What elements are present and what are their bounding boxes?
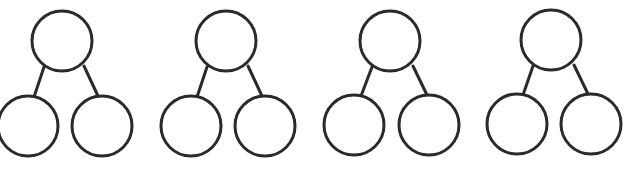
part-circle-left bbox=[487, 94, 547, 154]
connector-line-right bbox=[413, 66, 427, 95]
part-circle-right bbox=[235, 96, 295, 156]
part-circle-right bbox=[561, 94, 621, 154]
number-bond bbox=[0, 11, 132, 156]
connector-line-left bbox=[34, 67, 44, 97]
whole-circle bbox=[32, 11, 92, 71]
number-bond bbox=[161, 11, 295, 156]
part-circle-right bbox=[399, 95, 459, 155]
connector-line-left bbox=[523, 66, 533, 95]
whole-circle bbox=[521, 10, 581, 70]
diagram-canvas bbox=[0, 0, 624, 171]
number-bonds-diagram bbox=[0, 0, 624, 171]
connector-line-right bbox=[84, 66, 98, 96]
whole-circle bbox=[360, 11, 420, 71]
part-circle-right bbox=[72, 96, 132, 156]
connector-line-right bbox=[574, 65, 588, 94]
number-bond bbox=[487, 10, 621, 154]
part-circle-left bbox=[0, 96, 58, 156]
whole-circle bbox=[196, 11, 256, 71]
part-circle-left bbox=[324, 95, 384, 155]
connector-line-left bbox=[197, 67, 207, 97]
connector-line-right bbox=[248, 66, 262, 96]
part-circle-left bbox=[161, 96, 221, 156]
number-bond bbox=[324, 11, 459, 155]
connector-line-left bbox=[361, 67, 372, 96]
